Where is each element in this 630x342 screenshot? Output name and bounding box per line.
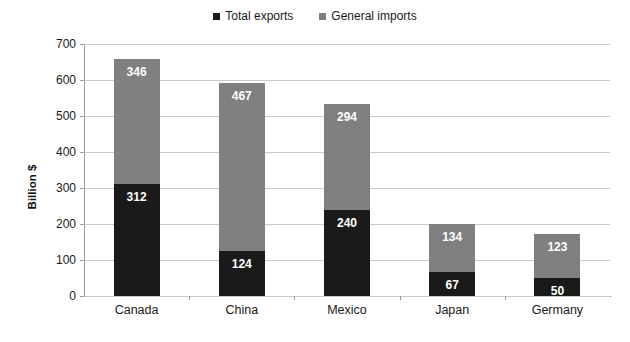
y-tick-mark [80, 296, 84, 297]
bar-group: 467124 [189, 44, 294, 296]
bar-value-label: 67 [429, 279, 475, 291]
bar-segment[interactable]: 50 [534, 278, 580, 296]
bar-segment[interactable]: 67 [429, 272, 475, 296]
bar-stack[interactable]: 12350 [534, 234, 580, 296]
legend-item-label: General imports [331, 10, 416, 22]
bar-segment[interactable]: 294 [324, 104, 370, 210]
y-tick-label: 300 [32, 182, 76, 194]
x-tick-mark [189, 296, 190, 300]
y-tick-label: 200 [32, 218, 76, 230]
legend-item: General imports [319, 10, 416, 22]
plot-area: 3463124671242942401346712350 [84, 44, 610, 296]
bar-value-label: 124 [219, 258, 265, 270]
y-tick-label: 700 [32, 38, 76, 50]
bar-segment[interactable]: 134 [429, 224, 475, 272]
y-tick-label: 400 [32, 146, 76, 158]
square-marker-gray-icon [319, 13, 326, 20]
x-axis-category-label: Germany [505, 303, 610, 317]
bar-segment[interactable]: 467 [219, 83, 265, 251]
bar-group: 294240 [294, 44, 399, 296]
bar-value-label: 346 [114, 66, 160, 78]
x-tick-mark [400, 296, 401, 300]
bar-segment[interactable]: 240 [324, 210, 370, 296]
x-axis-category-label: Mexico [294, 303, 399, 317]
bar-stack[interactable]: 467124 [219, 83, 265, 296]
bar-group: 13467 [400, 44, 505, 296]
bar-stack[interactable]: 346312 [114, 59, 160, 296]
y-tick-label: 0 [32, 290, 76, 302]
stacked-bar-chart: Total exportsGeneral imports Billion $ 3… [0, 0, 630, 342]
bar-value-label: 134 [429, 231, 475, 243]
bar-value-label: 123 [534, 241, 580, 253]
x-axis-category-label: Japan [400, 303, 505, 317]
bar-segment[interactable]: 346 [114, 59, 160, 184]
bar-stack[interactable]: 294240 [324, 104, 370, 296]
legend-item-label: Total exports [225, 10, 293, 22]
gridline [84, 296, 610, 297]
bar-value-label: 50 [534, 285, 580, 297]
bar-segment[interactable]: 124 [219, 251, 265, 296]
legend-item: Total exports [213, 10, 293, 22]
bar-group: 346312 [84, 44, 189, 296]
bar-group: 12350 [505, 44, 610, 296]
bar-value-label: 467 [219, 90, 265, 102]
bar-stack[interactable]: 13467 [429, 224, 475, 296]
x-tick-mark [294, 296, 295, 300]
bar-segment[interactable]: 123 [534, 234, 580, 278]
y-tick-label: 500 [32, 110, 76, 122]
x-tick-mark [505, 296, 506, 300]
y-tick-label: 100 [32, 254, 76, 266]
square-marker-black-icon [213, 13, 220, 20]
chart-legend: Total exportsGeneral imports [0, 10, 630, 22]
bar-value-label: 240 [324, 217, 370, 229]
bar-value-label: 294 [324, 111, 370, 123]
y-tick-label: 600 [32, 74, 76, 86]
x-axis-category-label: China [189, 303, 294, 317]
bar-segment[interactable]: 312 [114, 184, 160, 296]
x-axis-category-label: Canada [84, 303, 189, 317]
bar-value-label: 312 [114, 191, 160, 203]
